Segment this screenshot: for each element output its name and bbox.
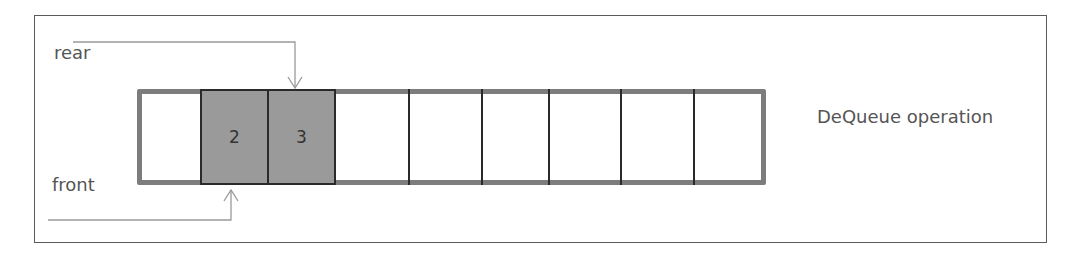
rear-label: rear: [54, 44, 91, 62]
queue-cell-2: 3: [267, 89, 336, 185]
cell-value: 2: [229, 127, 240, 147]
queue-array: 2 3: [137, 89, 766, 185]
queue-cell-0: [137, 89, 205, 185]
front-label: front: [52, 176, 95, 194]
queue-cell-5: [481, 89, 548, 185]
operation-title: DeQueue operation: [817, 108, 993, 126]
queue-cell-3: [334, 89, 408, 185]
queue-cell-4: [408, 89, 481, 185]
queue-cell-8: [693, 89, 761, 185]
cell-value: 3: [296, 127, 307, 147]
queue-cell-7: [620, 89, 693, 185]
queue-cell-6: [548, 89, 620, 185]
queue-cell-1: 2: [200, 89, 269, 185]
